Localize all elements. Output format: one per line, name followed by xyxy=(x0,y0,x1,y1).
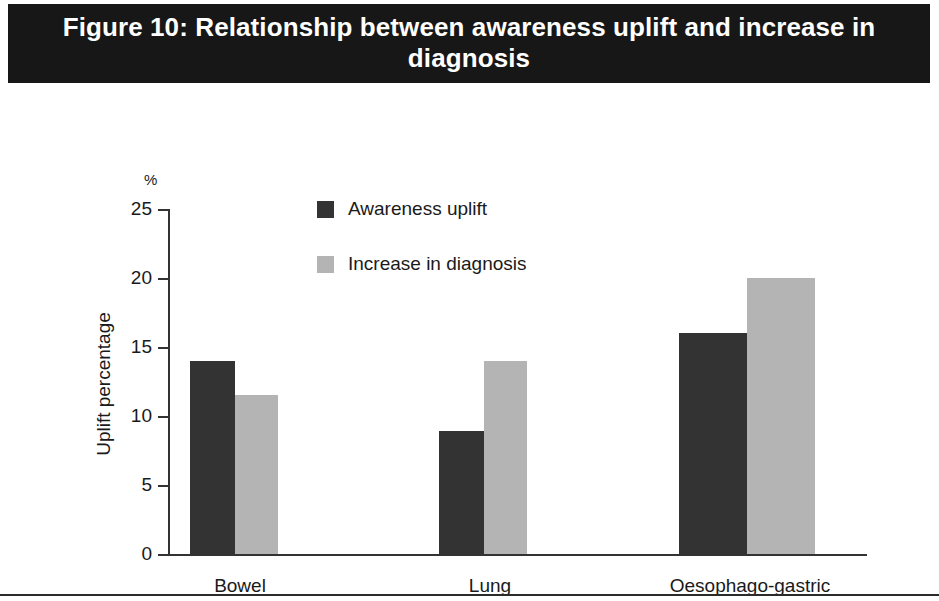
x-axis-line xyxy=(168,554,867,556)
legend-label-increase-in-diagnosis: Increase in diagnosis xyxy=(348,253,527,275)
y-tick-mark-20 xyxy=(158,278,169,280)
y-tick-label-10: 10 xyxy=(108,405,152,427)
y-tick-mark-5 xyxy=(158,485,169,487)
footer-divider xyxy=(0,594,939,596)
bar-bowel-increase-in-diagnosis xyxy=(235,395,278,554)
y-tick-label-5: 5 xyxy=(108,474,152,496)
figure-title-banner: Figure 10: Relationship between awarenes… xyxy=(8,4,930,83)
legend-swatch-icon-increase-in-diagnosis xyxy=(317,256,334,273)
y-tick-label-25: 25 xyxy=(108,198,152,220)
y-tick-mark-10 xyxy=(158,416,169,418)
y-tick-label-0: 0 xyxy=(108,543,152,565)
chart-legend: Awareness uplift Increase in diagnosis xyxy=(317,200,527,310)
bar-oesophago-gastric-awareness-uplift xyxy=(679,333,747,554)
bar-bowel-awareness-uplift xyxy=(190,361,235,554)
bar-lung-increase-in-diagnosis xyxy=(484,361,527,554)
y-axis-line xyxy=(168,209,170,556)
y-tick-label-15: 15 xyxy=(108,336,152,358)
plot-area: 25 20 15 10 5 0 Bowel Lung Oesophago-gas… xyxy=(0,83,939,601)
bar-lung-awareness-uplift xyxy=(439,431,484,554)
y-tick-mark-25 xyxy=(158,209,169,211)
legend-item-awareness-uplift: Awareness uplift xyxy=(317,200,527,218)
legend-swatch-icon-awareness-uplift xyxy=(317,201,334,218)
legend-item-increase-in-diagnosis: Increase in diagnosis xyxy=(317,255,527,273)
page-title: Figure 10: Relationship between awarenes… xyxy=(38,12,900,73)
figure-chart-area: % Uplift percentage 25 20 15 10 5 0 Bowe… xyxy=(0,83,939,601)
y-tick-mark-15 xyxy=(158,347,169,349)
y-tick-mark-0 xyxy=(158,554,169,556)
y-tick-label-20: 20 xyxy=(108,267,152,289)
legend-label-awareness-uplift: Awareness uplift xyxy=(348,198,487,220)
bar-oesophago-gastric-increase-in-diagnosis xyxy=(747,278,815,554)
